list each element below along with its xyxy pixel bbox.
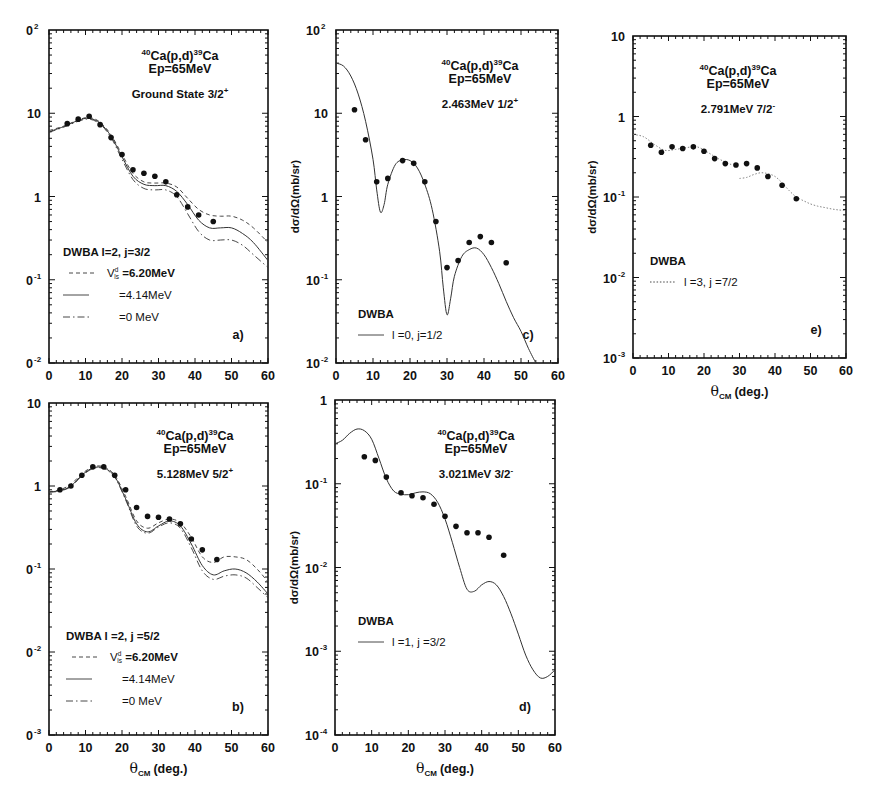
y-axis-label: dσ/dΩ(mb/sr) (288, 531, 300, 604)
data-point (97, 122, 103, 128)
x-tick-label: 30 (733, 364, 747, 378)
x-axis-label: θCM(deg.) (130, 760, 188, 778)
y-tick-label: 10 (27, 107, 41, 121)
data-point (384, 474, 390, 480)
y-tick-label: 10 (305, 478, 319, 492)
theory-curves (49, 466, 268, 598)
data-point (185, 204, 191, 210)
x-tick-label: 50 (514, 369, 528, 383)
legend: DWBAl =0, j=1/2 (358, 308, 443, 341)
panel-title: 40Ca(p,d)39CaEp=65MeV3.021MeV 3/2- (438, 428, 516, 480)
data-point (464, 530, 470, 536)
panel-b: 01020304050601010-10-20-3θCM(deg.)40Ca(p… (26, 397, 275, 778)
y-axis-label: dσ/dΩ(mb/sr) (289, 160, 301, 233)
y-tick-label: 1 (34, 191, 41, 205)
legend: DWBAl =1, j =3/2 (358, 615, 446, 648)
data-point (733, 162, 739, 168)
legend-header: DWBA l =2, j =5/2 (66, 630, 160, 642)
y-tick-exponent: -3 (618, 350, 626, 359)
data-point (475, 530, 481, 536)
data-point (680, 146, 686, 152)
data-point (501, 552, 507, 558)
x-tick-label: 60 (839, 364, 853, 378)
data-point (64, 121, 70, 127)
data-point (754, 165, 760, 171)
data-point (152, 173, 158, 179)
curve-dashdot (49, 468, 268, 598)
svg-text:40Ca(p,d)39Ca: 40Ca(p,d)39Ca (142, 48, 220, 63)
x-tick-label: 40 (477, 369, 491, 383)
data-point (363, 137, 369, 143)
y-tick-label: 0 (26, 24, 33, 38)
x-tick-label: 30 (152, 741, 166, 755)
y-tick-label: 10 (306, 24, 320, 38)
data-point (701, 148, 707, 154)
panel-title: 40Ca(p,d)39CaEp=65MeV2.791MeV 7/2- (700, 63, 778, 115)
panel-d: 0102030405060110-110-210-310-4dσ/dΩ(mb/s… (288, 394, 562, 778)
data-point (433, 219, 439, 225)
data-point (79, 472, 85, 478)
legend-entry-label: Vdls =6.20MeV (110, 650, 178, 664)
x-tick-label: 30 (152, 369, 166, 383)
data-point (422, 179, 428, 185)
panel-label: a) (232, 328, 243, 342)
data-point (374, 179, 380, 185)
legend-entry-label: Vdls =6.20MeV (107, 266, 175, 280)
data-point (119, 152, 125, 158)
y-tick-label: 10 (603, 352, 617, 366)
y-tick-label: 10 (305, 562, 319, 576)
x-tick-label: 60 (261, 369, 275, 383)
data-point (101, 464, 107, 470)
legend: DWBAl =3, j =7/2 (650, 255, 738, 288)
legend-entry-label: l =3, j =7/2 (684, 276, 738, 288)
data-point (178, 521, 184, 527)
data-point (455, 258, 461, 264)
data-point (167, 516, 173, 522)
data-point (431, 501, 437, 507)
data-point (130, 167, 136, 173)
x-tick-label: 0 (333, 369, 340, 383)
data-point (691, 144, 697, 150)
x-tick-label: 10 (79, 369, 93, 383)
panel-label: e) (810, 323, 821, 337)
y-tick-exponent: 2 (321, 22, 326, 31)
data-point (134, 505, 140, 511)
y-tick-label: 1 (34, 480, 41, 494)
data-point (196, 212, 202, 218)
data-point (453, 524, 459, 530)
data-point (442, 513, 448, 519)
x-tick-label: 50 (804, 364, 818, 378)
y-tick-label: 1 (618, 111, 625, 125)
x-tick-label: 0 (630, 364, 637, 378)
svg-text:5.128MeV 5/2+: 5.128MeV 5/2+ (157, 466, 234, 480)
x-tick-label: 50 (225, 741, 239, 755)
y-tick-exponent: -1 (321, 272, 329, 281)
y-tick-label: 10 (305, 729, 319, 743)
data-point (444, 265, 450, 271)
x-axis-label: θCM(deg.) (711, 383, 769, 401)
data-point (409, 493, 415, 499)
y-tick-label: 0 (26, 646, 33, 660)
experimental-points (64, 113, 216, 224)
figure-canvas: 0102030405060021010-10-240Ca(p,d)39CaEp=… (0, 0, 872, 802)
data-point (794, 196, 800, 202)
y-tick-exponent: -2 (320, 560, 328, 569)
svg-text:40Ca(p,d)39Ca: 40Ca(p,d)39Ca (442, 58, 520, 73)
svg-text:3.021MeV 3/2-: 3.021MeV 3/2- (439, 466, 514, 480)
figure: 0102030405060021010-10-240Ca(p,d)39CaEp=… (0, 0, 872, 802)
x-tick-label: 30 (440, 369, 454, 383)
data-point (398, 490, 404, 496)
svg-text:2.463MeV 1/2+: 2.463MeV 1/2+ (442, 96, 519, 110)
svg-text:40Ca(p,d)39Ca: 40Ca(p,d)39Ca (157, 428, 235, 443)
y-tick-exponent: -2 (34, 644, 42, 653)
data-point (156, 514, 162, 520)
data-point (503, 260, 509, 266)
data-point (400, 158, 406, 164)
data-point (648, 142, 654, 148)
legend-entry-label: =0 MeV (119, 311, 159, 323)
legend-header: DWBA (650, 255, 686, 267)
x-tick-label: 0 (332, 741, 339, 755)
curve-dashed (49, 466, 268, 582)
svg-text:40Ca(p,d)39Ca: 40Ca(p,d)39Ca (438, 428, 516, 443)
x-tick-label: 20 (697, 364, 711, 378)
